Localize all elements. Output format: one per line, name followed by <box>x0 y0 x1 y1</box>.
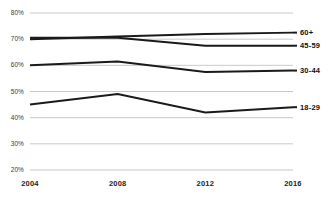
x-tick-label-2008: 2008 <box>104 179 132 188</box>
x-tick-label-2016: 2016 <box>279 179 307 188</box>
series-label-45-59: 45-59 <box>300 41 320 50</box>
y-tick-label-70: 70% <box>0 35 24 43</box>
line-chart: 20%30%40%50%60%70%80% 2004200820122016 6… <box>0 0 335 197</box>
series-label-60plus: 60+ <box>300 28 313 37</box>
series-line-18-29 <box>30 94 293 112</box>
series-label-18-29: 18-29 <box>300 103 320 112</box>
y-tick-label-20: 20% <box>0 166 24 174</box>
y-tick-label-40: 40% <box>0 114 24 122</box>
y-tick-label-50: 50% <box>0 88 24 96</box>
gridline-group <box>30 13 293 170</box>
chart-plot-area <box>0 0 335 197</box>
y-tick-label-80: 80% <box>0 9 24 17</box>
series-label-30-44: 30-44 <box>300 66 320 75</box>
x-tick-label-2012: 2012 <box>191 179 219 188</box>
series-line-group <box>30 33 297 113</box>
y-tick-label-30: 30% <box>0 140 24 148</box>
series-line-30-44 <box>30 61 293 71</box>
y-tick-label-60: 60% <box>0 61 24 69</box>
x-tick-label-2004: 2004 <box>16 179 44 188</box>
